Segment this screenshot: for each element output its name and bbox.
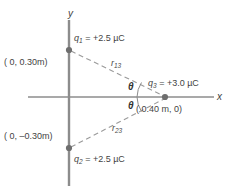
charge-subscript-q2: 2: [79, 158, 83, 165]
coordinate-label-q1: ( 0, 0.30m): [4, 58, 48, 67]
distance-subscript-r13: 13: [114, 62, 121, 69]
coordinate-label-q3: ( 0.40 m, 0): [136, 105, 182, 114]
charge-value-q2: = +2.5 µC: [85, 154, 125, 164]
theta-upper-label: θ: [128, 82, 134, 92]
charge-point-q2: [66, 145, 72, 151]
charge-point-q1: [66, 47, 72, 53]
charge-label-q1: q1 = +2.5 µC: [74, 34, 125, 43]
charge-diagram: y x q1 = +2.5 µC ( 0, 0.30m) q2 = +2.5 µ…: [0, 0, 233, 191]
charge-value-q3: = +3.0 µC: [159, 78, 199, 88]
charge-value-q1: = +2.5 µC: [85, 33, 125, 43]
r13-dashed-line: [71, 51, 164, 96]
charge-label-q2: q2 = +2.5 µC: [74, 155, 125, 164]
coordinate-label-q2: ( 0, –0.30m): [4, 132, 53, 141]
x-axis-label: x: [217, 92, 222, 102]
distance-subscript-r23: 23: [115, 127, 122, 134]
y-axis-label: y: [68, 9, 73, 19]
theta-lower-label: θ: [128, 101, 134, 111]
distance-label-r23: r23: [112, 124, 122, 133]
charge-point-q3: [162, 94, 168, 100]
charge-subscript-q3: 3: [153, 82, 157, 89]
distance-label-r13: r13: [111, 59, 121, 68]
charge-label-q3: q3 = +3.0 µC: [148, 79, 199, 88]
charge-subscript-q1: 1: [79, 37, 83, 44]
